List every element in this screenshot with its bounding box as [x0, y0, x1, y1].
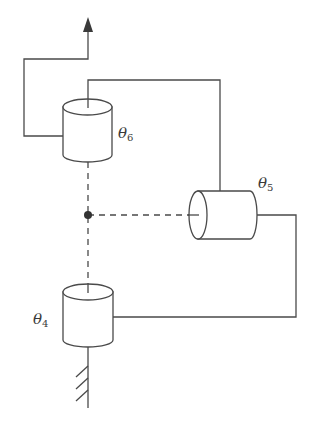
joint-theta4-cylinder [63, 284, 113, 347]
wrist-center-point [84, 211, 92, 219]
label-theta5: θ5 [258, 174, 273, 193]
ground-hatch [76, 378, 88, 389]
ground-hatch [76, 390, 88, 401]
spherical-wrist-diagram: θ6 θ5 θ4 [0, 0, 311, 422]
label-theta6: θ6 [118, 124, 133, 143]
ground-hatch [76, 366, 88, 377]
joint-theta6-cylinder [63, 99, 112, 162]
joint-theta5-cylinder [188, 191, 257, 239]
ground-base [76, 345, 88, 408]
label-theta4: θ4 [33, 310, 48, 329]
end-effector-arrow-icon [83, 17, 93, 32]
